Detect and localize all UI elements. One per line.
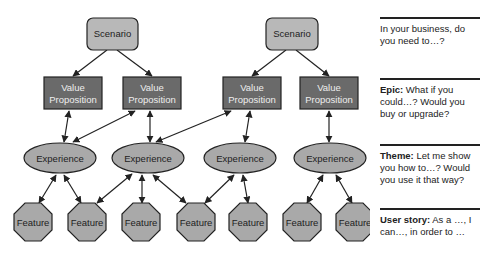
- experience-label: Experience: [216, 153, 264, 164]
- experience-label: Experience: [306, 153, 354, 164]
- legend-scenario: In your business, do you need to…?: [380, 17, 480, 47]
- value-prop-line1: Value: [140, 82, 164, 93]
- feature-node: Feature: [283, 203, 321, 241]
- experience-node: Experience: [204, 143, 276, 173]
- scenario-label: Scenario: [273, 28, 311, 39]
- value-prop-line2: Proposition: [228, 94, 276, 105]
- legend-divider: [380, 208, 480, 210]
- legend-term: User story:: [380, 214, 430, 225]
- experience-node: Experience: [294, 143, 366, 173]
- feature-node: Feature: [122, 203, 160, 241]
- story-hierarchy-diagram: Scenario Scenario Value Proposition Valu…: [0, 0, 370, 257]
- value-prop-to-experience-arrows: [64, 111, 329, 142]
- legend-user-story: User story: As a …, I can…, in order to …: [380, 208, 480, 238]
- scenario-to-value-prop-arrows: [73, 50, 329, 76]
- value-prop-line2: Proposition: [128, 94, 176, 105]
- experience-node: Experience: [112, 143, 184, 173]
- value-proposition-node: Value Proposition: [44, 77, 102, 109]
- feature-node: Feature: [68, 203, 106, 241]
- legend-divider: [380, 144, 480, 146]
- feature-label: Feature: [17, 217, 50, 228]
- scenario-node: Scenario: [87, 18, 138, 50]
- value-prop-line2: Proposition: [49, 94, 97, 105]
- feature-label: Feature: [339, 217, 370, 228]
- legend-divider: [380, 78, 480, 80]
- legend-divider: [380, 17, 480, 19]
- scenario-node: Scenario: [266, 18, 318, 50]
- feature-node: Feature: [336, 203, 370, 241]
- legend-epic: Epic: What if you could…? Would you buy …: [380, 78, 480, 120]
- value-prop-line1: Value: [317, 82, 341, 93]
- value-proposition-node: Value Proposition: [123, 77, 181, 109]
- legend-description: In your business, do you need to…?: [380, 23, 465, 46]
- feature-label: Feature: [125, 217, 158, 228]
- legend-term: Theme:: [380, 150, 414, 161]
- feature-label: Feature: [232, 217, 265, 228]
- experience-to-feature-arrows: [39, 174, 352, 203]
- feature-node: Feature: [14, 203, 52, 241]
- legend-theme: Theme: Let me show you how to…? Would yo…: [380, 144, 480, 186]
- value-proposition-node: Value Proposition: [300, 77, 358, 109]
- scenario-label: Scenario: [94, 28, 132, 39]
- feature-node: Feature: [229, 203, 267, 241]
- value-prop-line1: Value: [61, 82, 85, 93]
- value-prop-line2: Proposition: [305, 94, 353, 105]
- value-prop-line1: Value: [240, 82, 264, 93]
- feature-label: Feature: [71, 217, 104, 228]
- feature-label: Feature: [286, 217, 319, 228]
- legend-term: Epic:: [380, 84, 403, 95]
- value-proposition-node: Value Proposition: [223, 77, 281, 109]
- experience-node: Experience: [24, 143, 96, 173]
- experience-label: Experience: [124, 153, 172, 164]
- experience-label: Experience: [36, 153, 84, 164]
- feature-node: Feature: [177, 203, 215, 241]
- feature-label: Feature: [180, 217, 213, 228]
